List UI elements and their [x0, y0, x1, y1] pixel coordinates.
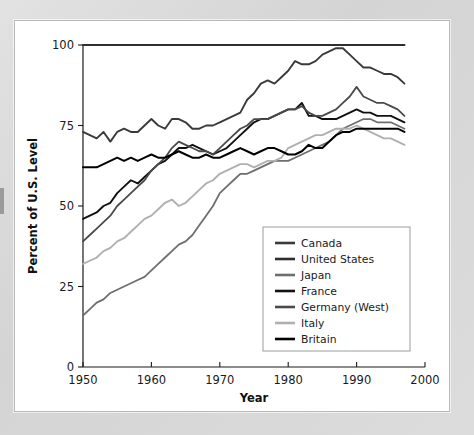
chart-legend: CanadaUnited StatesJapanFranceGermany (W…: [263, 227, 410, 351]
y-tick-label: 0: [67, 360, 74, 374]
series-line-france: [83, 103, 404, 219]
legend-label-canada: Canada: [301, 237, 342, 250]
y-tick-label: 100: [52, 38, 74, 52]
legend-label-united-states: United States: [301, 253, 374, 266]
legend-label-britain: Britain: [301, 333, 337, 346]
y-axis-ticks: 0255075100: [52, 38, 83, 374]
line-chart: 0255075100 195019601970198019902000 Year…: [15, 21, 449, 411]
x-axis-title: Year: [239, 391, 269, 405]
y-tick-label: 25: [59, 280, 74, 294]
x-tick-label: 1960: [137, 373, 166, 387]
x-tick-label: 1980: [274, 373, 303, 387]
legend-label-france: France: [301, 285, 337, 298]
y-axis-title: Percent of U.S. Level: [26, 138, 40, 274]
x-tick-label: 1970: [205, 373, 234, 387]
legend-label-italy: Italy: [301, 317, 325, 330]
y-tick-label: 50: [59, 199, 74, 213]
x-axis-ticks: 195019601970198019902000: [68, 362, 439, 387]
x-tick-label: 1990: [342, 373, 371, 387]
legend-label-japan: Japan: [300, 269, 331, 282]
x-tick-label: 1950: [68, 373, 97, 387]
series-line-britain: [83, 129, 404, 168]
figure-page: 0255075100 195019601970198019902000 Year…: [0, 0, 474, 435]
legend-label-germany-west: Germany (West): [301, 301, 389, 314]
figure-card: 0255075100 195019601970198019902000 Year…: [14, 20, 450, 412]
y-tick-label: 75: [59, 119, 74, 133]
x-tick-label: 2000: [410, 373, 439, 387]
page-edge-marker: [0, 188, 4, 214]
